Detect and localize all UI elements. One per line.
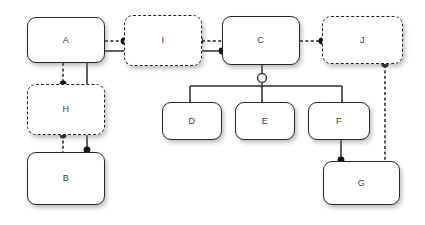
edge-c-to-bus: [258, 65, 267, 86]
node-j[interactable]: J: [322, 16, 403, 64]
node-i[interactable]: I: [124, 15, 202, 66]
node-h-label: H: [63, 105, 70, 114]
node-i-label: I: [162, 36, 165, 45]
node-f[interactable]: F: [308, 102, 370, 140]
node-j-label: J: [360, 36, 365, 45]
node-e[interactable]: E: [235, 102, 295, 140]
edge-j-to-g: [381, 60, 388, 161]
diagram-canvas: A I C J H B D E F G: [0, 0, 425, 225]
node-f-label: F: [336, 117, 342, 126]
node-d[interactable]: D: [162, 102, 222, 140]
node-e-label: E: [262, 117, 268, 126]
node-a[interactable]: A: [27, 17, 105, 63]
node-g-label: G: [358, 179, 365, 188]
node-c[interactable]: C: [222, 16, 300, 65]
node-h[interactable]: H: [27, 84, 105, 135]
edge-bus-rail: [190, 86, 342, 102]
node-b-label: B: [63, 174, 69, 183]
edge-f-to-g: [338, 140, 345, 163]
node-b[interactable]: B: [27, 152, 105, 205]
node-d-label: D: [189, 117, 196, 126]
bus-junction-circle: [258, 74, 267, 83]
node-a-label: A: [63, 36, 69, 45]
node-c-label: C: [258, 36, 265, 45]
node-g[interactable]: G: [323, 161, 400, 205]
